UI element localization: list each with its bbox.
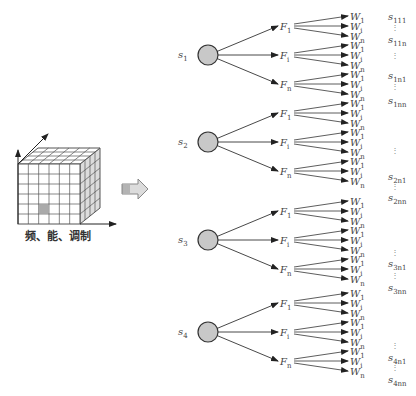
output-state-label: s1nn <box>388 95 407 109</box>
state-to-feature-arrow <box>217 303 278 328</box>
weight-label: Wn <box>350 366 365 380</box>
state-circle <box>198 230 218 250</box>
feature-to-weight-arrow <box>294 322 348 330</box>
ellipsis-vertical-icon: ⋮ <box>391 363 399 372</box>
feature-to-weight-arrow <box>294 28 348 36</box>
state-circle <box>198 322 218 342</box>
output-state-label: s3nn <box>388 282 407 296</box>
transition-arrow-icon <box>122 179 148 199</box>
feature-to-weight-arrow <box>294 57 348 65</box>
feature-to-weight-arrow <box>294 242 348 250</box>
state-to-feature-arrow <box>217 211 278 236</box>
ellipsis-vertical-icon: ⋮ <box>391 82 399 91</box>
output-state-label: s3n1 <box>388 258 407 272</box>
state-to-feature-arrow <box>217 244 278 269</box>
state-to-feature-arrow <box>217 26 278 51</box>
feature-to-weight-arrow <box>294 363 348 371</box>
feature-to-weight-arrow <box>294 16 348 24</box>
ellipsis-vertical-icon: ⋮ <box>391 341 399 350</box>
feature-to-weight-arrow <box>294 132 348 140</box>
state-label: s3 <box>178 234 188 248</box>
feature-to-weight-arrow <box>294 305 348 313</box>
state-node-s3: s3F1W1WiWnFiW1WiWnFnW1WiWn <box>178 196 365 288</box>
feature-label: F1 <box>279 21 291 35</box>
ellipsis-vertical-icon: ⋮ <box>391 146 399 155</box>
feature-to-weight-arrow <box>294 144 348 152</box>
state-to-feature-arrow <box>217 113 278 138</box>
feature-to-weight-arrow <box>294 161 348 169</box>
feature-label: Fi <box>279 327 290 341</box>
state-to-feature-arrow <box>217 59 278 84</box>
highlighted-cell <box>39 205 48 214</box>
feature-label: F1 <box>279 206 291 220</box>
feature-to-weight-arrow <box>294 45 348 53</box>
output-state-label: s4nn <box>388 374 407 388</box>
state-node-s1: s1F1W1WiWnFiW1WiWnFnW1WiWn <box>178 11 365 103</box>
feature-to-weight-arrow <box>294 271 348 279</box>
state-label: s2 <box>178 136 188 150</box>
feature-to-weight-arrow <box>294 74 348 82</box>
state-to-feature-arrow <box>217 336 278 361</box>
feature-label: Fn <box>279 356 292 370</box>
feature-to-weight-arrow <box>294 334 348 342</box>
ellipsis-vertical-icon: ⋮ <box>391 182 399 191</box>
feature-label: Fn <box>279 166 292 180</box>
state-label: s1 <box>178 49 188 63</box>
ellipsis-vertical-icon: ⋮ <box>391 248 399 257</box>
feature-to-weight-arrow <box>294 351 348 359</box>
state-circle <box>198 45 218 65</box>
data-cube: 频、能、调制 <box>18 134 116 243</box>
ellipsis-vertical-icon: ⋮ <box>391 51 399 60</box>
feature-label: Fi <box>279 235 290 249</box>
feature-to-weight-arrow <box>294 86 348 94</box>
feature-label: Fi <box>279 50 290 64</box>
weight-label: Wn <box>350 274 365 288</box>
ellipsis-vertical-icon: ⋮ <box>391 23 399 32</box>
feature-label: F1 <box>279 298 291 312</box>
output-state-label: s2nn <box>388 192 407 206</box>
feature-to-weight-arrow <box>294 230 348 238</box>
state-label: s4 <box>178 326 188 340</box>
feature-to-weight-arrow <box>294 115 348 123</box>
feature-label: Fn <box>279 264 292 278</box>
feature-to-weight-arrow <box>294 201 348 209</box>
tree-diagram: 频、能、调制 s1F1W1WiWnFiW1WiWnFnW1WiWns2F1W1W… <box>0 0 416 396</box>
state-trees: s1F1W1WiWnFiW1WiWnFnW1WiWns2F1W1WiWnFiW1… <box>178 11 365 380</box>
feature-to-weight-arrow <box>294 213 348 221</box>
feature-to-weight-arrow <box>294 259 348 267</box>
output-state-label: s11n <box>388 34 407 48</box>
feature-to-weight-arrow <box>294 103 348 111</box>
feature-label: Fn <box>279 79 292 93</box>
state-circle <box>198 132 218 152</box>
ellipsis-vertical-icon: ⋮ <box>391 271 399 280</box>
feature-to-weight-arrow <box>294 293 348 301</box>
feature-to-weight-arrow <box>294 173 348 181</box>
feature-label: Fi <box>279 137 290 151</box>
state-node-s2: s2F1W1WiWnFiW1WiWnFnW1WiWn <box>178 98 365 190</box>
cube-caption: 频、能、调制 <box>25 229 91 243</box>
weight-label: Wn <box>350 176 365 190</box>
state-to-feature-arrow <box>217 146 278 171</box>
feature-label: F1 <box>279 108 291 122</box>
state-node-s4: s4F1W1WiWnFiW1WiWnFnW1WiWn <box>178 288 365 380</box>
output-labels-column: s111⋮s11n⋮s1n1⋮s1nn⋮s2n1⋮s2nn⋮s3n1⋮s3nn⋮… <box>388 11 407 388</box>
